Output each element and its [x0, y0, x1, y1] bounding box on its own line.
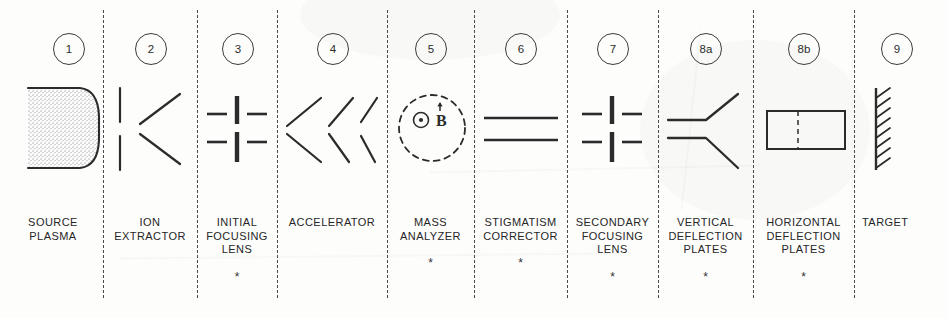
step-number: 1: [66, 43, 73, 55]
ion-beam-schematic-diagram: 1 2 3 4 5 6 7 8a 8b 9: [0, 0, 948, 318]
symbol-target: [868, 80, 924, 180]
star-marker-stigmatism-corrector: *: [476, 258, 565, 268]
symbol-source-plasma: [28, 82, 108, 182]
accel-slant-3-upper: [361, 98, 377, 122]
label-target: TARGET: [856, 216, 940, 230]
step-badge-8a: 8a: [690, 33, 722, 65]
target-hatching: [876, 88, 890, 168]
column-divider: [753, 10, 754, 298]
symbol-secondary-focusing-lens: [578, 82, 648, 182]
step-badge-4: 4: [317, 33, 349, 65]
step-badge-8b: 8b: [788, 33, 820, 65]
column-divider: [854, 10, 855, 298]
column-divider: [277, 10, 278, 298]
accel-slant-2-lower: [329, 134, 349, 162]
step-number: 8a: [699, 43, 712, 55]
step-number: 2: [148, 43, 155, 55]
step-badge-3: 3: [222, 33, 254, 65]
symbol-vertical-deflection-plates: [666, 82, 748, 182]
step-number: 8b: [797, 43, 810, 55]
label-ion-extractor: ION EXTRACTOR: [105, 216, 195, 243]
label-accelerator: ACCELERATOR: [279, 216, 385, 230]
accel-slant-2-upper: [329, 98, 353, 126]
label-mass-analyzer: MASS ANALYZER: [389, 216, 472, 243]
symbol-horizontal-deflection-plates: [764, 82, 848, 182]
b-field-vector-arrow-head: [437, 102, 442, 106]
extractor-slant-upper: [140, 94, 180, 124]
column-divider: [197, 10, 198, 298]
step-number: 9: [894, 43, 901, 55]
column-divider: [658, 10, 659, 298]
step-badge-2: 2: [135, 33, 167, 65]
b-field-label: B: [436, 112, 447, 129]
column-divider: [387, 10, 388, 298]
star-marker-horizontal-deflection-plates: *: [755, 272, 852, 282]
label-horizontal-deflection-plates: HORIZONTAL DEFLECTION PLATES: [755, 216, 852, 257]
label-source-plasma: SOURCE PLASMA: [8, 216, 98, 243]
symbol-ion-extractor: [112, 82, 194, 182]
step-badge-5: 5: [415, 33, 447, 65]
column-divider: [567, 10, 568, 298]
symbol-initial-focusing-lens: [203, 82, 273, 182]
accel-slant-3-lower: [361, 136, 375, 162]
symbol-mass-analyzer: B: [396, 78, 470, 178]
column-divider: [474, 10, 475, 298]
deflection-box: [767, 111, 845, 149]
step-badge-7: 7: [597, 33, 629, 65]
extractor-slant-lower: [140, 134, 180, 164]
label-vertical-deflection-plates: VERTICAL DEFLECTION PLATES: [660, 216, 751, 257]
star-marker-mass-analyzer: *: [389, 258, 472, 268]
step-badge-6: 6: [505, 33, 537, 65]
field-out-of-page-dot: [419, 118, 423, 122]
step-number: 3: [235, 43, 242, 55]
step-number: 4: [330, 43, 337, 55]
deflect-plate-lower: [668, 138, 738, 168]
star-marker-vertical-deflection-plates: *: [660, 272, 751, 282]
accel-slant-1-lower: [287, 134, 321, 162]
step-badge-9: 9: [881, 33, 913, 65]
step-number: 7: [610, 43, 617, 55]
star-marker-secondary-focusing-lens: *: [569, 272, 656, 282]
label-initial-focusing-lens: INITIAL FOCUSING LENS: [199, 216, 275, 257]
symbol-accelerator: [283, 82, 383, 182]
step-badge-1: 1: [53, 33, 85, 65]
label-secondary-focusing-lens: SECONDARY FOCUSING LENS: [569, 216, 656, 257]
symbol-stigmatism-corrector: [481, 82, 561, 182]
star-marker-initial-focusing-lens: *: [199, 272, 275, 282]
label-stigmatism-corrector: STIGMATISM CORRECTOR: [476, 216, 565, 243]
step-number: 5: [428, 43, 435, 55]
accel-slant-1-upper: [287, 98, 321, 126]
step-number: 6: [518, 43, 525, 55]
analyzer-dashed-circle: [399, 95, 465, 161]
deflect-plate-upper: [668, 94, 738, 120]
